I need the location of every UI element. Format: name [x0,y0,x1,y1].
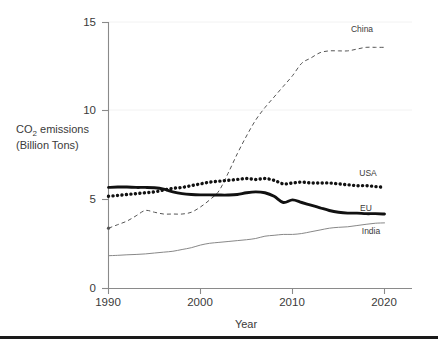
series-label-usa: USA [359,168,377,178]
x-tick-label-2010: 2010 [279,296,305,308]
series-label-china: China [351,24,373,34]
y-axis-title-rest: emissions [37,123,89,135]
y-tick-label-15: 15 [83,16,96,28]
y-axis-title-line2: (Billion Tons) [16,139,79,151]
series-label-india: India [362,226,381,236]
y-tick-label-5: 5 [90,193,96,205]
y-tick-label-10: 10 [83,104,96,116]
x-tick-label-2020: 2020 [371,296,397,308]
series-label-eu: EU [360,203,372,213]
y-axis-title-co: CO [16,123,33,135]
footer-rule [0,336,438,339]
x-tick-label-1990: 1990 [95,296,121,308]
china-origin-marker [107,227,110,230]
co2-emissions-line-chart: 15 10 5 0 1990 2000 2010 2020 Year CO2 e… [0,0,438,343]
x-axis-title: Year [235,318,258,330]
x-tick-label-2000: 2000 [187,296,213,308]
y-tick-label-0: 0 [90,282,96,294]
